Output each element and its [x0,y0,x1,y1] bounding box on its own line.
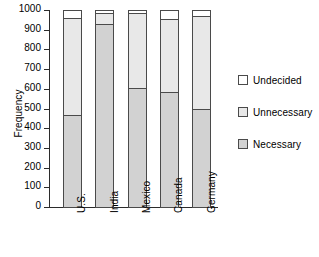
x-tick-label: Germany [206,171,217,213]
bar-segment-unnecessary [128,13,147,89]
bar-segment-necessary [95,24,114,208]
y-tick-label: 100 [1,180,41,191]
y-tick-label: 900 [1,23,41,34]
bar-segment-undecided [128,10,147,14]
y-tick-label: 500 [1,102,41,113]
legend-label: Undecided [253,75,302,86]
y-tick-label: 600 [1,82,41,93]
bar-segment-undecided [160,10,179,20]
x-tick-label: India [109,191,120,213]
x-tick-label: U.S. [76,193,87,213]
y-tick-label: 300 [1,141,41,152]
bar-us [63,10,82,207]
legend-item-necessary: Necessary [238,138,312,150]
legend-label: Unnecessary [253,107,312,118]
y-tick: 300 [44,148,49,149]
bar-segment-undecided [63,10,82,19]
y-tick: 200 [44,168,49,169]
bar-segment-unnecessary [160,19,179,93]
x-tick-label: Canada [173,177,184,213]
legend-swatch-icon [238,139,248,149]
chart-legend: Undecided Unnecessary Necessary [238,74,312,170]
legend-swatch-icon [238,75,248,85]
y-tick: 700 [44,69,49,70]
bar-segment-unnecessary [95,13,114,25]
y-tick: 100 [44,187,49,188]
plot-area: 01002003004005006007008009001000 U.S.Ind… [56,10,218,207]
y-tick-label: 400 [1,121,41,132]
legend-swatch-icon [238,107,248,117]
bar-segment-unnecessary [192,16,211,111]
y-axis-line [49,10,50,207]
legend-item-undecided: Undecided [238,74,312,86]
y-tick: 400 [44,128,49,129]
y-tick: 0 [44,207,49,208]
bar-mexico [128,10,147,207]
y-tick-label: 0 [1,200,41,211]
y-tick: 500 [44,109,49,110]
legend-item-unnecessary: Unnecessary [238,106,312,118]
bar-segment-undecided [95,10,114,14]
bar-segment-unnecessary [63,18,82,117]
y-tick-label: 1000 [1,3,41,14]
bar-india [95,10,114,207]
y-tick-label: 700 [1,62,41,73]
y-tick: 600 [44,89,49,90]
y-tick: 1000 [44,10,49,11]
bar-segment-undecided [192,10,211,17]
legend-label: Necessary [253,139,301,150]
y-tick-label: 800 [1,42,41,53]
y-tick: 800 [44,49,49,50]
x-tick-label: Mexico [141,181,152,213]
y-tick-label: 200 [1,161,41,172]
y-tick: 900 [44,30,49,31]
stacked-bar-chart: Frequency 010020030040050060070080090010… [0,0,319,257]
